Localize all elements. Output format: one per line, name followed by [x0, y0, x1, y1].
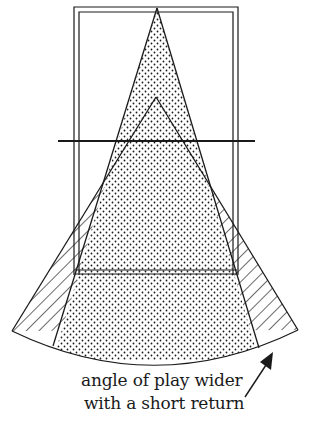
angle-of-play-diagram [0, 0, 310, 426]
pointer-arrow-icon [245, 352, 273, 397]
caption-line-1: angle of play wider [81, 370, 243, 390]
narrow-angle-area [53, 8, 259, 360]
caption-line-2: with a short return [84, 393, 244, 413]
